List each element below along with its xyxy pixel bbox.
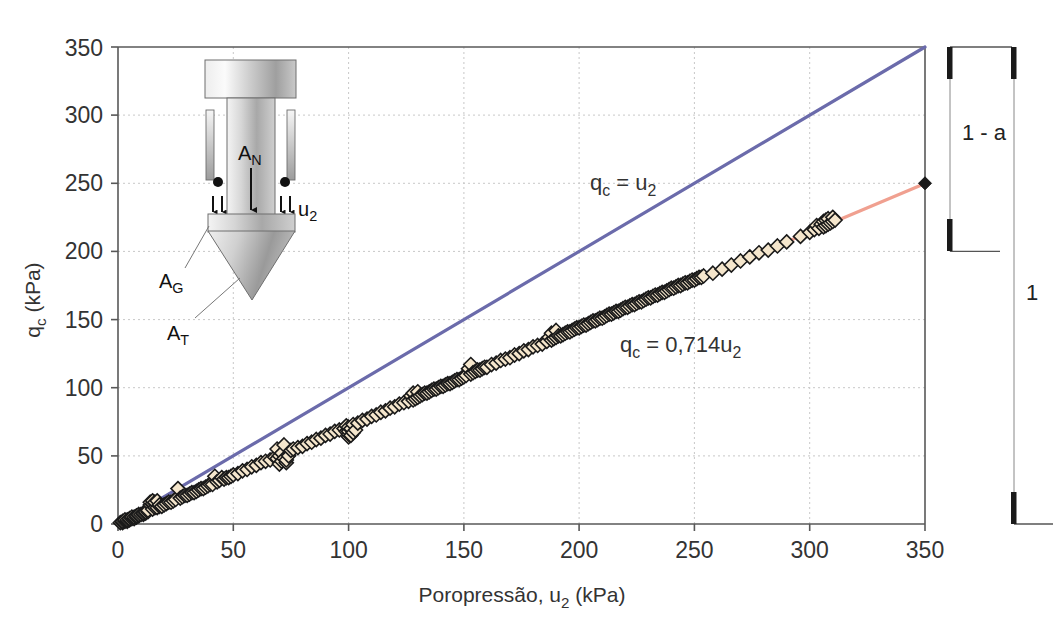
cone-shoulder-band	[208, 214, 295, 232]
y-tick-label: 0	[90, 511, 103, 537]
x-tick-label: 200	[560, 537, 598, 563]
canvas-background	[0, 0, 1058, 634]
x-axis-title-sub: 2	[561, 594, 569, 611]
x-tick-label: 250	[675, 537, 713, 563]
y-axis-title-unit: (kPa)	[21, 262, 44, 318]
cone-seal-dot-right	[280, 177, 290, 187]
x-axis-title-unit: (kPa)	[569, 583, 625, 606]
x-axis-title-main: Poropressão, u	[419, 583, 561, 606]
y-tick-label: 200	[65, 238, 103, 264]
y-tick-label: 150	[65, 307, 103, 333]
x-tick-label: 0	[112, 537, 125, 563]
y-tick-label: 250	[65, 170, 103, 196]
x-tick-label: 150	[445, 537, 483, 563]
dimension-label-1-minus-a: 1 - a	[962, 120, 1007, 145]
x-tick-label: 350	[906, 537, 944, 563]
cone-sleeve-left	[206, 110, 214, 180]
figure-container: 0 50 100 150 200 250 300 350 0 50 100 15…	[0, 0, 1058, 634]
y-tick-label: 300	[65, 102, 103, 128]
y-tick-label: 350	[65, 35, 103, 61]
y-tick-label: 50	[77, 443, 103, 469]
cone-sleeve-right	[287, 110, 295, 180]
x-tick-label: 300	[791, 537, 829, 563]
y-axis-title-main: q	[21, 326, 44, 338]
scatter-plot-svg: 0 50 100 150 200 250 300 350 0 50 100 15…	[0, 0, 1058, 634]
x-tick-label: 100	[329, 537, 367, 563]
cone-head-block	[205, 60, 296, 98]
x-tick-label: 50	[221, 537, 247, 563]
annotation-equality-equation: qc = u2	[590, 170, 656, 199]
cone-seal-dot-left	[213, 177, 223, 187]
dimension-label-1: 1	[1026, 280, 1038, 305]
y-tick-label: 100	[65, 375, 103, 401]
